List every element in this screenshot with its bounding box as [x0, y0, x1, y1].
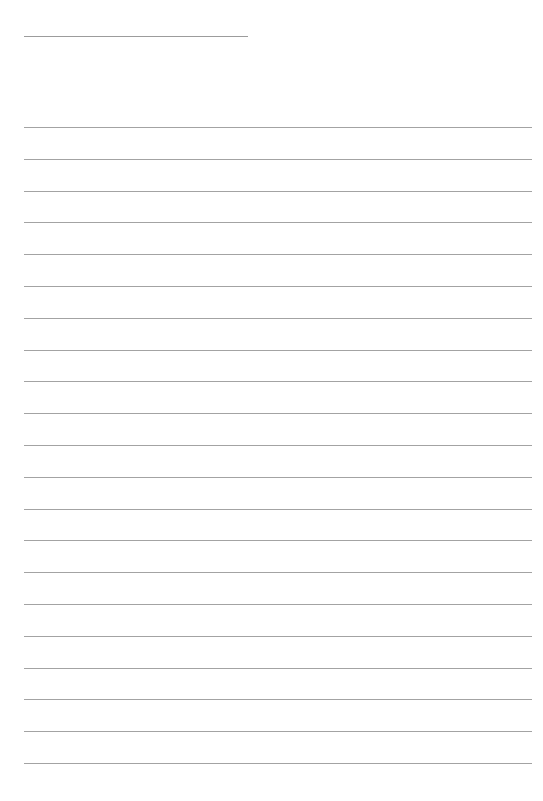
ruled-line: [24, 509, 532, 510]
ruled-line: [24, 254, 532, 255]
ruled-line: [24, 350, 532, 351]
ruled-line: [24, 477, 532, 478]
ruled-line: [24, 127, 532, 128]
ruled-line: [24, 604, 532, 605]
ruled-line: [24, 318, 532, 319]
ruled-line: [24, 540, 532, 541]
ruled-line: [24, 191, 532, 192]
ruled-line: [24, 572, 532, 573]
title-writing-line: [24, 36, 248, 37]
ruled-line: [24, 636, 532, 637]
ruled-line: [24, 668, 532, 669]
ruled-line: [24, 763, 532, 764]
ruled-line: [24, 731, 532, 732]
ruled-line: [24, 699, 532, 700]
lined-paper-page: [0, 0, 543, 801]
ruled-line: [24, 159, 532, 160]
ruled-line: [24, 413, 532, 414]
ruled-line: [24, 381, 532, 382]
ruled-line: [24, 222, 532, 223]
ruled-line: [24, 445, 532, 446]
ruled-line: [24, 286, 532, 287]
